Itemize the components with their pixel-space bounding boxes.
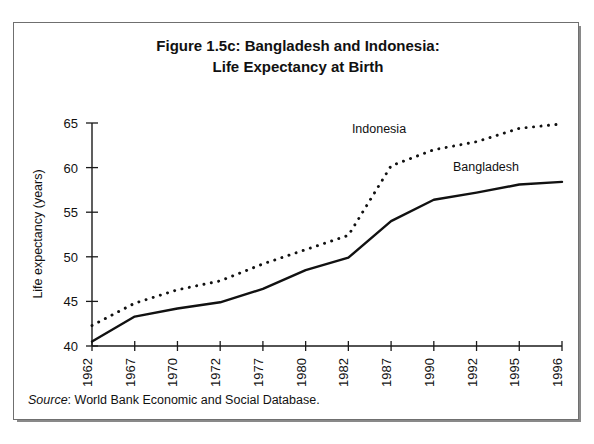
chart-title-line-1: Figure 1.5c: Bangladesh and Indonesia: bbox=[156, 37, 439, 54]
x-tick-label: 1980 bbox=[294, 358, 309, 387]
y-axis-ticks: 404550556065 bbox=[64, 116, 98, 354]
x-tick-label: 1987 bbox=[379, 358, 394, 387]
life-expectancy-line-chart: Figure 1.5c: Bangladesh and Indonesia: L… bbox=[1, 1, 594, 444]
x-tick-label: 1995 bbox=[507, 358, 522, 387]
x-tick-label: 1962 bbox=[80, 358, 95, 387]
x-tick-label: 1970 bbox=[165, 358, 180, 387]
y-tick-label: 40 bbox=[64, 339, 78, 354]
source-text: World Bank Economic and Social Database. bbox=[75, 393, 320, 407]
y-tick-label: 50 bbox=[64, 250, 78, 265]
series-label-bangladesh: Bangladesh bbox=[453, 160, 519, 174]
y-tick-label: 45 bbox=[64, 294, 78, 309]
x-tick-label: 1992 bbox=[465, 358, 480, 387]
y-axis-title: Life expectancy (years) bbox=[31, 169, 45, 298]
x-tick-label: 1967 bbox=[123, 358, 138, 387]
y-tick-label: 65 bbox=[64, 116, 78, 131]
x-tick-label: 1996 bbox=[550, 358, 565, 387]
chart-title-line-2: Life Expectancy at Birth bbox=[213, 58, 384, 75]
x-axis-ticks: 1962196719701972197719801982198719901992… bbox=[80, 341, 565, 387]
x-tick-label: 1982 bbox=[336, 358, 351, 387]
figure-panel: Figure 1.5c: Bangladesh and Indonesia: L… bbox=[13, 22, 579, 420]
source-note: Source: World Bank Economic and Social D… bbox=[28, 393, 558, 407]
x-tick-label: 1990 bbox=[422, 358, 437, 387]
y-tick-label: 55 bbox=[64, 205, 78, 220]
y-tick-label: 60 bbox=[64, 161, 78, 176]
series-line-bangladesh bbox=[92, 182, 562, 342]
series-label-indonesia: Indonesia bbox=[352, 122, 406, 136]
source-label: Source bbox=[28, 393, 68, 407]
series-line-indonesia bbox=[92, 124, 562, 326]
source-separator: : bbox=[68, 393, 71, 407]
x-tick-label: 1977 bbox=[251, 358, 266, 387]
x-tick-label: 1972 bbox=[208, 358, 223, 387]
